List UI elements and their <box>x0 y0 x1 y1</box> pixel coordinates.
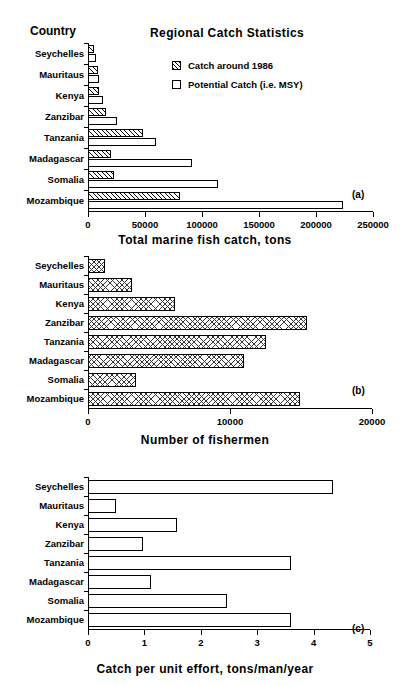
category-label-mozambique: Mozambique <box>2 614 84 625</box>
bar-c-madagascar-0 <box>88 575 151 589</box>
panel-a-catch-statistics: Country Regional Catch Statistics Catch … <box>0 0 405 240</box>
bar-a-mauritaus-0 <box>88 66 98 74</box>
y-axis-tick <box>84 294 88 295</box>
y-axis-tick <box>84 534 88 535</box>
panel-a-plot-area: 050000100000150000200000250000Seychelles… <box>88 43 373 211</box>
x-axis-tick <box>88 212 89 217</box>
x-axis-tick-label: 50000 <box>132 219 158 230</box>
x-axis-tick-label: 100000 <box>186 219 218 230</box>
category-label-mauritaus: Mauritaus <box>2 279 84 290</box>
bar-c-seychelles-0 <box>88 480 333 494</box>
panel-c-tag: (c) <box>352 623 364 634</box>
category-label-tanzania: Tanzania <box>2 557 84 568</box>
x-axis-tick <box>145 212 146 217</box>
y-axis-tick <box>84 313 88 314</box>
y-axis-tick <box>84 477 88 478</box>
panel-c-plot-area: 012345SeychellesMauritausKenyaZanzibarTa… <box>88 477 370 629</box>
x-axis-line <box>88 211 373 212</box>
y-axis-tick <box>84 515 88 516</box>
y-axis-tick <box>84 610 88 611</box>
bar-c-mozambique-0 <box>88 613 291 627</box>
x-axis-tick-label: 5 <box>367 637 372 648</box>
bar-b-somalia-0 <box>88 373 136 387</box>
bar-c-zanzibar-0 <box>88 537 143 551</box>
bar-a-somalia-0 <box>88 171 114 179</box>
x-axis-tick-label: 1 <box>142 637 147 648</box>
category-label-mauritaus: Mauritaus <box>2 69 84 80</box>
y-axis-tick <box>84 591 88 592</box>
bar-a-zanzibar-0 <box>88 108 106 116</box>
x-axis-tick <box>316 212 317 217</box>
bar-c-kenya-0 <box>88 518 177 532</box>
bar-a-tanzania-0 <box>88 129 143 137</box>
category-label-somalia: Somalia <box>2 595 84 606</box>
category-label-somalia: Somalia <box>2 174 84 185</box>
bar-a-mozambique-1 <box>88 201 343 209</box>
x-axis-tick <box>88 409 89 414</box>
category-label-mozambique: Mozambique <box>2 195 84 206</box>
bar-a-zanzibar-1 <box>88 117 117 125</box>
panel-c-cpue: 012345SeychellesMauritausKenyaZanzibarTa… <box>0 455 405 685</box>
category-label-seychelles: Seychelles <box>2 260 84 271</box>
category-label-mozambique: Mozambique <box>2 393 84 404</box>
x-axis-tick-label: 3 <box>255 637 260 648</box>
category-label-kenya: Kenya <box>2 90 84 101</box>
bar-a-kenya-0 <box>88 87 99 95</box>
x-axis-tick <box>201 630 202 635</box>
x-axis-tick-label: 0 <box>85 219 90 230</box>
panel-b-plot-area: 01000020000SeychellesMauritausKenyaZanzi… <box>88 256 372 408</box>
x-axis-tick-label: 20000 <box>359 416 385 427</box>
category-label-madagascar: Madagascar <box>2 153 84 164</box>
category-label-kenya: Kenya <box>2 519 84 530</box>
panel-b-axis-title: Number of fishermen <box>141 433 269 447</box>
y-axis-tick <box>84 496 88 497</box>
bar-a-seychelles-1 <box>88 54 96 62</box>
x-axis-tick <box>257 630 258 635</box>
category-label-tanzania: Tanzania <box>2 336 84 347</box>
panel-b-tag: (b) <box>352 385 365 396</box>
y-axis-tick <box>84 389 88 390</box>
bar-a-kenya-1 <box>88 96 103 104</box>
bar-a-mauritaus-1 <box>88 75 99 83</box>
bar-b-zanzibar-0 <box>88 316 307 330</box>
bar-b-madagascar-0 <box>88 354 244 368</box>
bar-a-tanzania-1 <box>88 138 156 146</box>
bar-b-tanzania-0 <box>88 335 266 349</box>
country-column-header: Country <box>30 24 76 38</box>
panel-c-axis-title: Catch per unit effort, tons/man/year <box>96 662 313 676</box>
y-axis-tick <box>84 370 88 371</box>
y-axis-tick <box>84 332 88 333</box>
x-axis-tick <box>373 212 374 217</box>
bar-b-kenya-0 <box>88 297 175 311</box>
y-axis-tick <box>84 553 88 554</box>
x-axis-tick-label: 2 <box>198 637 203 648</box>
x-axis-tick <box>370 630 371 635</box>
y-axis-tick <box>84 572 88 573</box>
x-axis-tick <box>144 630 145 635</box>
panel-a-title: Regional Catch Statistics <box>150 26 304 40</box>
category-label-zanzibar: Zanzibar <box>2 111 84 122</box>
x-axis-tick <box>372 409 373 414</box>
bar-c-mauritaus-0 <box>88 499 116 513</box>
x-axis-tick <box>88 630 89 635</box>
category-label-madagascar: Madagascar <box>2 355 84 366</box>
x-axis-tick-label: 150000 <box>243 219 275 230</box>
bar-a-seychelles-0 <box>88 45 94 53</box>
category-label-somalia: Somalia <box>2 374 84 385</box>
category-label-seychelles: Seychelles <box>2 48 84 59</box>
x-axis-tick-label: 10000 <box>217 416 243 427</box>
panel-b-fishermen: 01000020000SeychellesMauritausKenyaZanzi… <box>0 240 405 455</box>
x-axis-tick <box>259 212 260 217</box>
bar-a-madagascar-1 <box>88 159 192 167</box>
x-axis-tick-label: 200000 <box>300 219 332 230</box>
bar-b-seychelles-0 <box>88 259 105 273</box>
x-axis-tick-label: 0 <box>85 637 90 648</box>
bar-c-tanzania-0 <box>88 556 291 570</box>
category-label-kenya: Kenya <box>2 298 84 309</box>
x-axis-line <box>88 629 370 630</box>
bar-c-somalia-0 <box>88 594 227 608</box>
x-axis-tick-label: 250000 <box>357 219 389 230</box>
category-label-zanzibar: Zanzibar <box>2 538 84 549</box>
category-label-zanzibar: Zanzibar <box>2 317 84 328</box>
x-axis-tick-label: 4 <box>311 637 316 648</box>
